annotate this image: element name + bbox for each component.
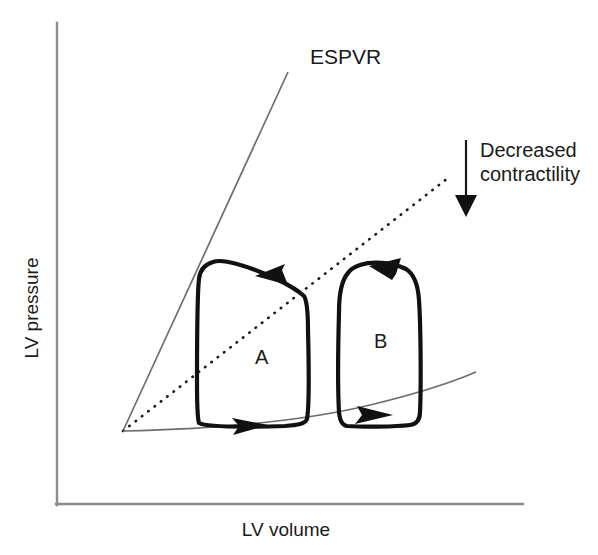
x-axis-label: LV volume [0,518,572,541]
pv-loop-drawing [0,0,598,555]
loop-b-filling-arrowhead [355,406,393,424]
loop-a-label: A [255,345,268,369]
depressed-espvr-dotted-line [123,178,448,431]
loop-a-curve [197,261,309,427]
decreased-contractility-line2: contractility [480,163,580,185]
espvr-label: ESPVR [310,44,381,70]
decreased-contractility-label: Decreasedcontractility [480,138,580,187]
pv-loop-figure: ESPVR Decreasedcontractility A B LV volu… [0,0,598,555]
loop-a-ejection-arrowhead [255,264,288,285]
decreased-contractility-line1: Decreased [480,139,577,161]
espvr-line [123,72,288,431]
y-axis-label: LV pressure [20,208,43,408]
loop-b-label: B [374,329,387,353]
